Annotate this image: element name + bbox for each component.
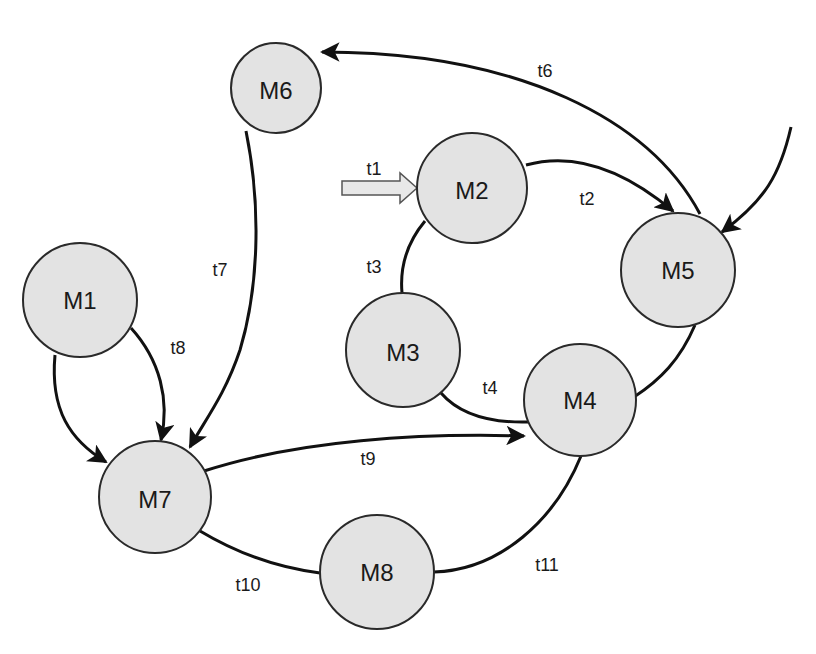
node-m7: M7 — [99, 441, 211, 553]
node-m1: M1 — [23, 243, 137, 357]
edge-label-t7: t7 — [212, 260, 227, 280]
node-label-m7: M7 — [138, 486, 171, 513]
node-m5: M5 — [621, 213, 735, 327]
node-m8: M8 — [320, 515, 434, 629]
edge-label-t3: t3 — [366, 257, 381, 277]
state-diagram: t1 t2 t3 t4 t6 t7 t8 t9 t10 t11 M1 M2 M3… — [0, 0, 816, 654]
edge-label-t6: t6 — [537, 61, 552, 81]
edge-t3 — [402, 221, 425, 293]
node-m3: M3 — [346, 293, 460, 407]
edge-t11 — [434, 456, 581, 572]
edge-t2 — [526, 161, 673, 211]
edge-t10 — [200, 531, 320, 573]
node-label-m6: M6 — [259, 77, 292, 104]
node-m4: M4 — [524, 344, 636, 456]
edge-label-t11: t11 — [535, 555, 559, 575]
edge-m4-m5 — [634, 325, 695, 397]
edge-in-m5 — [722, 127, 791, 232]
node-label-m5: M5 — [661, 257, 694, 284]
edge-label-t2: t2 — [579, 189, 594, 209]
edge-t8 — [131, 328, 164, 440]
edge-label-t9: t9 — [360, 449, 375, 469]
node-m6: M6 — [231, 43, 321, 133]
node-label-m2: M2 — [455, 177, 488, 204]
edge-label-t1: t1 — [366, 159, 381, 179]
node-label-m4: M4 — [563, 387, 596, 414]
edge-label-t8: t8 — [170, 338, 185, 358]
node-m2: M2 — [417, 133, 527, 243]
edge-label-t10: t10 — [235, 575, 260, 595]
edge-label-t4: t4 — [482, 378, 497, 398]
node-label-m3: M3 — [386, 339, 419, 366]
node-label-m1: M1 — [63, 287, 96, 314]
edge-m1-m7-left — [54, 355, 106, 462]
edge-t7 — [190, 131, 256, 447]
node-label-m8: M8 — [360, 559, 393, 586]
